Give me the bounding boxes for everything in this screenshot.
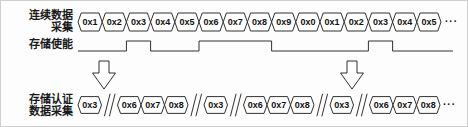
timing-diagram-figure: 连续数据 采集 存储使能 存储认证 数据采集 0x10x20x30x40x50x… [0,0,468,127]
bus-cell-label-authenticated-5: 0x6 [244,101,268,110]
bus-break-mark-1-1 [196,94,202,116]
bus-cell-label-authenticated-6: 0x7 [267,101,291,110]
bus-cell-label-authenticated-0: 0x3 [78,101,102,110]
capture-arrow-right [341,61,364,89]
bus-break-mark-2-1 [236,94,242,116]
bus-cell-label-continuous-0: 0x1 [78,18,102,27]
bus-break-mark-3-1 [322,94,328,116]
capture-arrow-left [93,61,116,89]
bus-cell-label-continuous-13: 0x4 [393,18,417,27]
bus-break-mark-4-1 [362,94,368,116]
capture-arrows [93,61,364,89]
bus-cell-label-authenticated-4: 0x3 [204,101,228,110]
bus-cell-label-authenticated-1: 0x6 [118,101,142,110]
bus-cell-label-authenticated-3: 0x8 [165,101,189,110]
bus-cell-label-authenticated-7: 0x8 [291,101,315,110]
bus-cell-label-continuous-9: 0x0 [296,18,320,27]
bus-cell-label-authenticated-11: 0x8 [417,101,441,110]
authenticated-bus-ellipsis: ··· [443,99,456,110]
bus-cell-label-authenticated-10: 0x7 [393,101,417,110]
bus-cell-label-continuous-1: 0x2 [102,18,126,27]
storage-enable-trace [78,41,453,51]
bus-cell-label-continuous-7: 0x8 [247,18,271,27]
bus-cell-label-continuous-14: 0x5 [417,18,441,27]
bus-break-mark-3-0 [317,94,323,116]
bus-cell-label-authenticated-8: 0x3 [330,101,354,110]
bus-break-mark-1-0 [191,94,197,116]
bus-cell-label-continuous-10: 0x1 [320,18,344,27]
bus-break-mark-0-1 [110,94,116,116]
bus-break-mark-4-0 [357,94,363,116]
bus-cell-label-continuous-8: 0x9 [272,18,296,27]
bus-cell-label-continuous-2: 0x3 [126,18,150,27]
bus-break-mark-2-0 [231,94,237,116]
bus-cell-label-continuous-12: 0x3 [368,18,392,27]
bus-cell-label-authenticated-9: 0x6 [370,101,394,110]
bus-break-mark-0-0 [105,94,111,116]
storage-enable-waveform [78,41,453,51]
bus-cell-label-continuous-5: 0x6 [199,18,223,27]
bus-cell-label-continuous-4: 0x5 [175,18,199,27]
continuous-bus-ellipsis: ··· [445,16,458,27]
bus-cell-label-continuous-11: 0x2 [344,18,368,27]
bus-cell-label-authenticated-2: 0x7 [141,101,165,110]
bus-cell-label-continuous-3: 0x4 [151,18,175,27]
bus-cell-label-continuous-6: 0x7 [223,18,247,27]
